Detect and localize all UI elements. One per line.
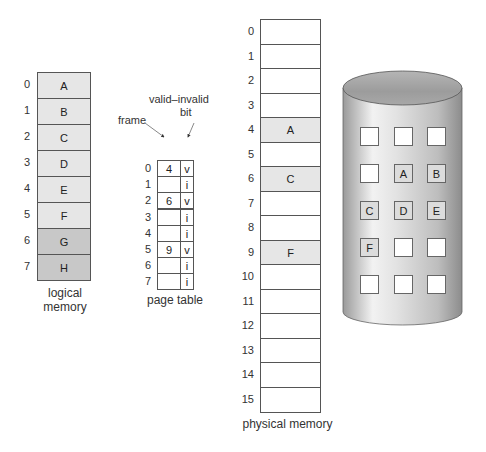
physical-frame-cell [260,387,321,413]
physical-frame-index: 12 [236,319,254,331]
physical-frame-index: 15 [236,393,254,405]
page-table-frame-cell [157,225,181,242]
page-table-index: 5 [137,243,151,255]
physical-frame-cell [260,44,321,70]
physical-frame-index: 1 [236,50,254,62]
page-table-frame-cell [157,176,181,193]
page-table-index: 2 [137,194,151,206]
physical-frame-cell: F [260,240,321,266]
page-table-valid-bit-cell: v [180,192,194,209]
page-table-label: page table [135,293,215,307]
page-table-index: 3 [137,211,151,223]
physical-frame-cell [260,19,321,45]
physical-frame-cell [260,93,321,119]
physical-frame-index: 14 [236,368,254,380]
physical-frame-cell [260,362,321,388]
physical-memory-label: physical memory [225,417,350,431]
page-table-frame-cell: 4 [157,160,181,177]
physical-frame-cell [260,338,321,364]
page-table-frame-cell [157,273,181,290]
page-table-index: 1 [137,178,151,190]
physical-frame-index: 9 [236,246,254,258]
page-table-frame-cell [157,209,181,226]
page-table-valid-bit-cell: i [180,225,194,242]
physical-frame-cell [260,289,321,315]
physical-frame-cell: A [260,117,321,143]
physical-frame-cell [260,313,321,339]
physical-frame-cell [260,264,321,290]
page-table-valid-bit-cell: i [180,257,194,274]
physical-frame-index: 3 [236,99,254,111]
page-table-valid-bit-cell: i [180,273,194,290]
page-table-frame-cell [157,257,181,274]
page-table-index: 6 [137,259,151,271]
page-table-frame-cell: 6 [157,192,181,209]
physical-frame-index: 6 [236,172,254,184]
physical-frame-index: 8 [236,221,254,233]
physical-frame-index: 0 [236,25,254,37]
physical-frame-index: 2 [236,74,254,86]
page-table-index: 0 [137,162,151,174]
physical-frame-index: 7 [236,197,254,209]
page-table-valid-bit-cell: v [180,241,194,258]
page-table-valid-bit-cell: i [180,209,194,226]
physical-frame-index: 5 [236,148,254,160]
physical-frame-cell [260,215,321,241]
physical-frame-cell [260,191,321,217]
physical-frame-cell: C [260,166,321,192]
page-table-index: 4 [137,227,151,239]
page-table-valid-bit-cell: v [180,160,194,177]
physical-frame-index: 4 [236,123,254,135]
page-table-valid-bit-cell: i [180,176,194,193]
page-table-index: 7 [137,275,151,287]
physical-frame-cell [260,142,321,168]
physical-frame-index: 13 [236,344,254,356]
page-table-frame-cell: 9 [157,241,181,258]
physical-frame-index: 11 [236,295,254,307]
physical-frame-index: 10 [236,270,254,282]
physical-frame-cell [260,68,321,94]
